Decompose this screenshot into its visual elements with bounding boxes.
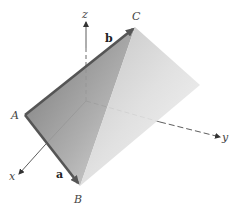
y-axis bbox=[160, 122, 220, 137]
vector-b-label: b bbox=[105, 32, 113, 45]
vertex-a-label: A bbox=[10, 109, 19, 122]
y-axis-label: y bbox=[221, 131, 229, 144]
x-axis-label: x bbox=[9, 170, 16, 183]
vertex-b-label: B bbox=[73, 193, 82, 206]
x-axis bbox=[19, 145, 45, 174]
parallelogram-diagram: z y x C A B b a bbox=[0, 0, 238, 212]
parallelogram-plane bbox=[25, 27, 200, 186]
vertex-c-label: C bbox=[132, 10, 141, 23]
z-axis-label: z bbox=[81, 8, 88, 21]
vector-a-label: a bbox=[56, 168, 63, 181]
